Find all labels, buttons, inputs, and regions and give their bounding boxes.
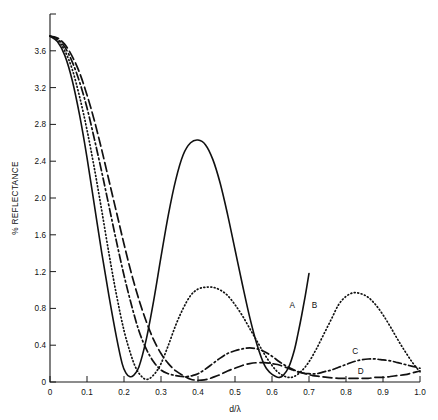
x-axis-label: d/λ <box>229 404 241 414</box>
x-tick-label: 1.0 <box>414 388 426 397</box>
curve-label-a: A <box>290 301 296 310</box>
y-tick-label: 3.2 <box>35 84 47 93</box>
x-tick-label: 0.9 <box>377 388 389 397</box>
x-tick-label: 0.1 <box>81 388 93 397</box>
curve-label-c: C <box>352 347 358 356</box>
y-tick-label: 0 <box>41 378 46 387</box>
y-axis-ticks: 00.40.81.21.62.02.42.83.23.6 <box>35 14 56 387</box>
curve-c <box>50 36 420 377</box>
chart-plot-area: 00.40.81.21.62.02.42.83.23.6 00.10.20.30… <box>0 0 438 420</box>
y-tick-label: 3.6 <box>35 47 47 56</box>
data-curves <box>50 36 420 380</box>
axis-frame <box>50 14 420 382</box>
reflectance-chart-figure: 00.40.81.21.62.02.42.83.23.6 00.10.20.30… <box>0 0 438 420</box>
x-tick-label: 0.2 <box>118 388 130 397</box>
y-tick-label: 0.8 <box>35 304 47 313</box>
axis-lines <box>50 14 420 382</box>
x-tick-label: 0.3 <box>155 388 167 397</box>
curve-annotations: ABCD <box>290 301 364 375</box>
x-tick-label: 0 <box>48 388 53 397</box>
curve-d <box>50 36 420 380</box>
y-tick-label: 2.4 <box>35 157 47 166</box>
curve-b <box>50 36 420 379</box>
y-tick-label: 1.6 <box>35 231 47 240</box>
x-tick-label: 0.5 <box>229 388 241 397</box>
x-tick-label: 0.4 <box>192 388 204 397</box>
y-tick-label: 2.0 <box>35 194 47 203</box>
x-tick-label: 0.8 <box>340 388 352 397</box>
curve-a <box>50 36 309 377</box>
y-tick-label: 0.4 <box>35 341 47 350</box>
curve-label-d: D <box>358 367 364 376</box>
x-tick-label: 0.7 <box>303 388 315 397</box>
curve-label-b: B <box>312 301 318 310</box>
x-tick-label: 0.6 <box>266 388 278 397</box>
x-axis-ticks: 00.10.20.30.40.50.60.70.80.91.0 <box>48 376 426 397</box>
y-tick-label: 2.8 <box>35 120 47 129</box>
y-axis-label: % REFLECTANCE <box>11 161 20 235</box>
y-tick-label: 1.2 <box>35 268 47 277</box>
